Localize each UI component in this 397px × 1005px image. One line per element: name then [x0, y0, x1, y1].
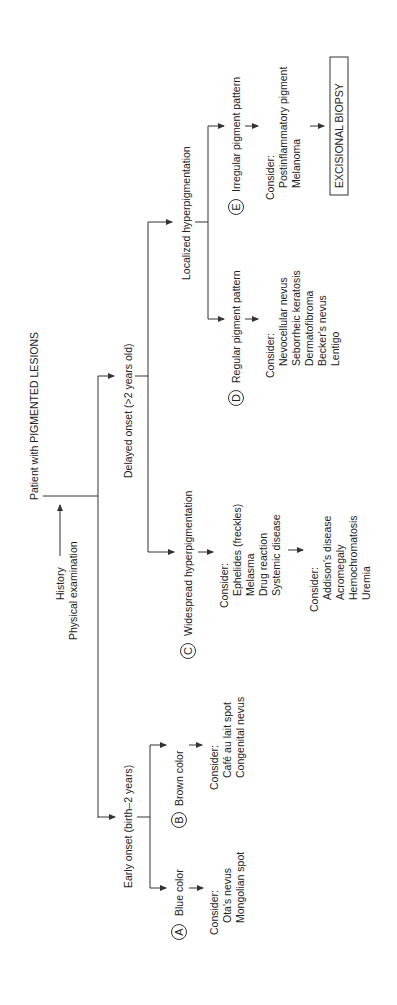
history-label: History — [54, 567, 66, 600]
widespread-consider: Consider: — [218, 563, 230, 608]
early-onset-label: Early onset (birth–2 years) — [122, 765, 134, 888]
excisional-biopsy-label: EXCISIONAL BIOPSY — [333, 83, 345, 188]
irregular-item: Postinflammatory pigment — [277, 67, 289, 188]
marker-b: B — [173, 816, 185, 823]
blue-label: Blue color — [173, 869, 185, 916]
systemic-item: Acromegaly — [334, 544, 346, 600]
localized-label: Localized hyperpigmentation — [180, 146, 192, 280]
blue-consider: Consider: — [208, 890, 220, 935]
marker-c: C — [182, 647, 194, 655]
marker-e: E — [230, 203, 242, 210]
regular-label: Regular pigment pattern — [230, 270, 242, 383]
regular-item: Becker's nevus — [316, 295, 328, 366]
blue-item: Mongolian spot — [234, 852, 246, 923]
widespread-label: Widespread hyperpigmentation — [182, 491, 194, 636]
irregular-consider: Consider: — [264, 155, 276, 200]
brown-consider: Consider: — [208, 745, 220, 790]
marker-d: D — [230, 394, 242, 402]
brown-item: Café au lait spot — [221, 702, 233, 778]
root-label: Patient with PIGMENTED LESIONS — [28, 332, 40, 500]
regular-item: Nevocellular nevus — [277, 277, 289, 366]
systemic-item: Uremia — [360, 566, 372, 600]
regular-item: Dermatofibroma — [303, 291, 315, 366]
delayed-onset-label: Delayed onset (>2 years old) — [122, 343, 134, 478]
systemic-consider: Consider: — [308, 567, 320, 612]
regular-item: Lentigo — [329, 331, 341, 366]
regular-consider: Consider: — [264, 333, 276, 378]
widespread-item: Ephelides (freckles) — [231, 504, 243, 596]
pigmented-lesions-flowchart: Patient with PIGMENTED LESIONS History P… — [0, 0, 397, 1005]
systemic-item: Addison's disease — [321, 516, 333, 600]
brown-item: Congenital nevus — [234, 697, 246, 778]
widespread-item: Melasma — [244, 553, 256, 596]
physical-exam-label: Physical examination — [67, 541, 79, 640]
irregular-label: Irregular pigment pattern — [230, 77, 242, 192]
irregular-item: Melanoma — [290, 139, 302, 188]
marker-a: A — [173, 928, 185, 936]
systemic-item: Hemochromatosis — [347, 515, 359, 600]
blue-item: Ota's nevus — [221, 868, 233, 923]
widespread-item: Drug reaction — [257, 533, 269, 596]
brown-label: Brown color — [173, 750, 185, 806]
regular-item: Seborrheic keratosis — [290, 270, 302, 366]
widespread-item: Systemic disease — [270, 514, 282, 596]
